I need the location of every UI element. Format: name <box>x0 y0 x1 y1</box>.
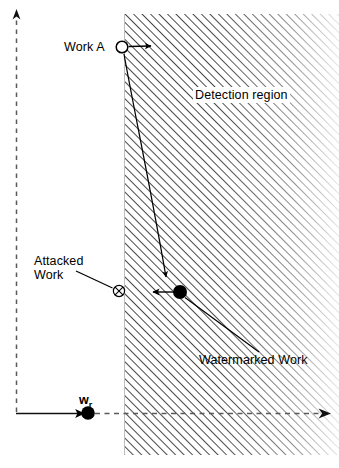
attacked-work-label: Attacked Work <box>34 254 83 282</box>
watermarked-work-dot <box>173 285 187 299</box>
work-a-label: Work A <box>64 40 105 54</box>
reference-vector-symbol: w <box>79 393 89 407</box>
vertical-axis <box>13 9 21 412</box>
work-a-direction-arrow <box>129 46 152 47</box>
reference-vector-label: wr <box>79 393 92 410</box>
watermarked-work-label: Watermarked Work <box>199 353 308 367</box>
figure-canvas: Work A Detection region Attacked Work Wa… <box>0 0 339 468</box>
detection-region-fill <box>124 14 339 455</box>
reference-vector-subscript: r <box>89 400 93 410</box>
detection-region-label: Detection region <box>193 87 290 103</box>
attacked-work-marker <box>113 285 124 296</box>
diagram-graphics <box>0 0 339 468</box>
work-a-marker <box>116 41 128 53</box>
